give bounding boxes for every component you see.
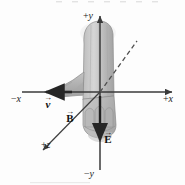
- diagram-canvas: [0, 0, 185, 185]
- axis-label-negative-x: −x: [11, 93, 21, 104]
- velocity-vector-label: → v: [44, 96, 52, 110]
- physics-diagram-figure: +y −y +x −x +z → v → B → E: [0, 0, 185, 185]
- magnetic-field-vector-label: → B: [66, 110, 74, 124]
- axis-label-positive-x: +x: [163, 93, 173, 104]
- electric-field-vector-label: → E: [104, 131, 112, 145]
- axis-label-positive-y: +y: [83, 10, 93, 21]
- axis-label-positive-z: +z: [41, 139, 50, 150]
- axis-label-negative-y: −y: [84, 168, 94, 179]
- hand-illustration: [49, 21, 116, 142]
